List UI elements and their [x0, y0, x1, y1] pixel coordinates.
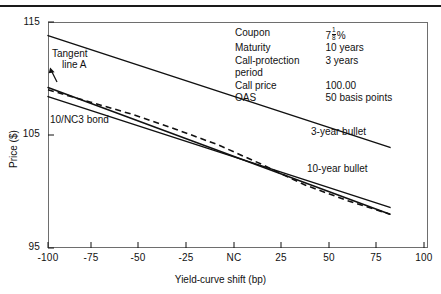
info-row-oas: OAS 50 basis points	[235, 92, 392, 104]
coupon-fraction: 18	[332, 27, 337, 41]
info-row-maturity: Maturity 10 years	[235, 42, 392, 54]
annotation-10-nc3-bond: 10/NC3 bond	[50, 114, 109, 125]
coupon-whole: 7	[325, 30, 331, 41]
info-key-call-price: Call price	[235, 80, 325, 92]
info-value-call-protection: 3 years	[325, 55, 392, 67]
info-row-call-protection: Call-protection 3 years	[235, 55, 392, 67]
annotation-10-year-bullet: 10-year bullet	[307, 163, 368, 174]
annotation-3-year-bullet: 3-year bullet	[311, 126, 366, 137]
info-key-period: period	[235, 67, 325, 79]
info-row-coupon: Coupon 718%	[235, 27, 392, 42]
info-value-coupon: 718%	[325, 27, 392, 42]
info-key-call-protection: Call-protection	[235, 55, 325, 67]
annotation-tangent-line-a-line2: line A	[62, 59, 86, 70]
info-key-coupon: Coupon	[235, 27, 325, 42]
coupon-percent-sign: %	[337, 30, 346, 41]
chart-figure: 115 105 95 Price ($) -100 -75 -50 -25 NC…	[0, 0, 441, 294]
info-row-call-price: Call price 100.00	[235, 80, 392, 92]
series-line-tangent-line-a	[48, 88, 390, 215]
info-value-call-price: 100.00	[325, 80, 392, 92]
info-key-maturity: Maturity	[235, 42, 325, 54]
info-value-period	[325, 67, 392, 79]
info-value-oas: 50 basis points	[325, 92, 392, 104]
info-key-oas: OAS	[235, 92, 325, 104]
coupon-denominator: 8	[332, 35, 337, 42]
annotation-tangent-line-a-line1: Tangent	[52, 48, 88, 59]
info-row-period: period	[235, 67, 392, 79]
bond-info-panel: Coupon 718% Maturity 10 years Call-prote…	[235, 27, 392, 104]
annotation-tangent-line-a: Tangent line A	[52, 48, 88, 70]
info-value-maturity: 10 years	[325, 42, 392, 54]
